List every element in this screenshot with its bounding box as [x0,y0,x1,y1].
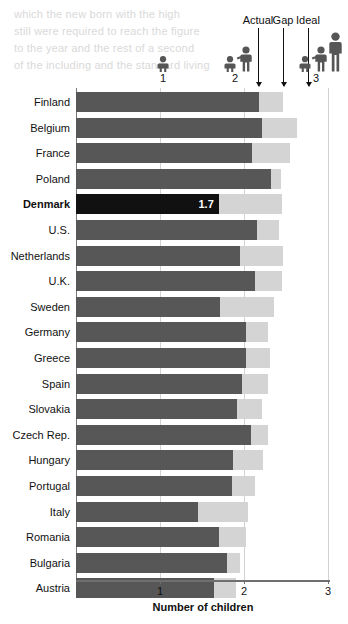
row-label-bulgaria: Bulgaria [30,553,70,573]
row-label-u-s: U.S. [49,220,70,240]
x-axis-line [76,580,330,582]
row-label-romania: Romania [26,527,70,547]
bar-segment-actual [76,220,257,240]
row-label-hungary: Hungary [28,450,70,470]
row-label-u-k: U.K. [49,271,70,291]
bar-segment-actual [76,169,271,189]
bar-segment-actual [76,476,232,496]
bar-segment-actual [76,450,233,470]
bar-segment-actual [76,425,251,445]
row-label-portugal: Portugal [29,476,70,496]
bar-segment-actual [76,399,237,419]
row-label-sweden: Sweden [30,297,70,317]
child-figure-icon [157,56,169,72]
row-label-germany: Germany [25,322,70,342]
bar-segment-actual [76,92,259,112]
bar-row: Sweden [76,297,328,317]
bar-segment-actual [76,271,255,291]
bar-row: Germany [76,322,328,342]
bar-row: Greece [76,348,328,368]
one-child-icon-group: 1 [152,48,174,72]
row-label-finland: Finland [34,92,70,112]
x-tick-1 [160,580,161,584]
legend-arrow-gap [283,28,284,86]
bar-segment-actual [76,374,242,394]
bar-segment-actual [76,527,219,547]
bar-value-label: 1.7 [199,194,214,214]
bar-row: Spain [76,374,328,394]
row-label-france: France [36,143,70,163]
bar-row: U.S. [76,220,328,240]
older-child-figure-icon [236,46,254,72]
x-axis-title: Number of children [76,601,330,613]
bar-segment-actual [76,246,240,266]
bar-row: Hungary [76,450,328,470]
bar-segment-actual [76,348,246,368]
bar-row: Romania [76,527,328,547]
bar-row: Poland [76,169,328,189]
bar-segment-actual [76,118,262,138]
gridline-3 [328,88,329,580]
row-label-czech-rep: Czech Rep. [13,425,70,445]
row-label-spain: Spain [42,374,70,394]
bar-row: Italy [76,502,328,522]
row-label-denmark: Denmark [23,194,70,214]
bar-row: Netherlands [76,246,328,266]
bar-segment-actual [76,322,246,342]
two-children-icon-number: 2 [218,72,252,84]
row-label-netherlands: Netherlands [11,246,70,266]
three-children-icon-group: 3 [299,32,347,72]
two-children-icon-group: 2 [224,42,258,72]
row-label-poland: Poland [36,169,70,189]
x-tick-label-3: 3 [313,585,343,597]
bar-row: Belgium [76,118,328,138]
legend-label-ideal: Ideal [284,14,332,26]
three-children-icon-number: 3 [299,72,333,84]
x-tick-label-2: 2 [229,585,259,597]
bar-segment-actual [76,502,198,522]
bar-row: France [76,143,328,163]
row-label-italy: Italy [50,502,70,522]
actual-vs-ideal-children-chart: Actual Gap Ideal 1 2 [0,0,348,624]
row-label-belgium: Belgium [30,118,70,138]
bar-row: Slovakia [76,399,328,419]
bar-row: Czech Rep. [76,425,328,445]
row-label-austria: Austria [36,578,70,598]
x-tick-label-1: 1 [145,585,175,597]
one-child-icon-number: 1 [152,72,174,84]
child-figure-icon [299,56,311,72]
row-label-slovakia: Slovakia [28,399,70,419]
legend-arrow-actual [258,28,259,86]
row-label-greece: Greece [34,348,70,368]
bar-segment-actual [76,297,220,317]
bar-row: Bulgaria [76,553,328,573]
bar-row: U.K. [76,271,328,291]
adult-figure-icon [327,32,345,72]
x-tick-2 [244,580,245,584]
bar-segment-actual [76,143,252,163]
child-figure-icon [224,56,236,72]
bar-segment-actual [76,553,227,573]
bar-row: Finland [76,92,328,112]
bar-row: Denmark1.7 [76,194,328,214]
bar-segment-actual: 1.7 [76,194,219,214]
x-tick-3 [328,580,329,584]
bar-row: Portugal [76,476,328,496]
